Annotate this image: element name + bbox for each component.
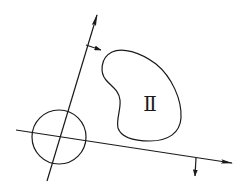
tilted-axis-normal-arrow — [86, 45, 101, 50]
tilted-axis — [47, 15, 97, 181]
region-label: Ⅱ — [143, 92, 157, 116]
diagram-canvas: Ⅱ — [0, 0, 245, 194]
horizontal-axis-normal-arrow — [195, 158, 196, 176]
region-outline — [102, 50, 181, 141]
